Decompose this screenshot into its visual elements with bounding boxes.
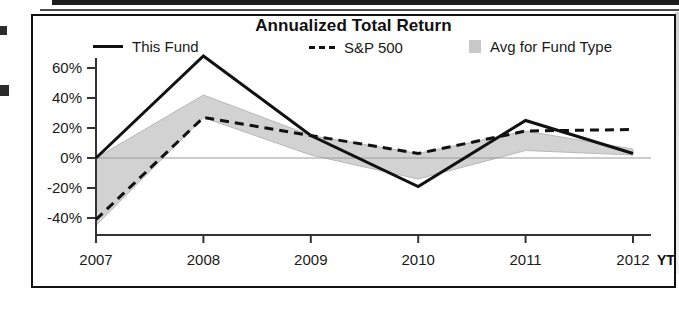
y-axis-tick-label: 0% (60, 149, 82, 166)
chart-figure-box: Annualized Total Return This Fund S&P 50… (31, 14, 676, 288)
x-axis-tick-label: 2012 (616, 251, 649, 268)
y-axis-tick-label: -40% (47, 209, 82, 226)
y-axis-tick-labels: 60%40%20%0%-20%-40% (47, 59, 82, 226)
x-axis-tick-label: 2008 (187, 251, 220, 268)
scan-artifact-top-bar (52, 0, 679, 5)
chart-plot-area: 60%40%20%0%-20%-40% 20072008200920102011… (33, 16, 674, 286)
y-axis-tick-label: 40% (52, 89, 82, 106)
x-axis-tick-label: 2010 (402, 251, 435, 268)
scan-artifact-left-mark-lower (0, 85, 9, 96)
x-axis-tick-label: 2007 (79, 251, 112, 268)
x-axis-tick-labels: 200720082009201020112012YTD (79, 251, 674, 268)
x-axis-tick-label: 2009 (294, 251, 327, 268)
x-axis-tick-label: 2011 (509, 251, 541, 268)
x-axis-ytd-label: YTD (657, 252, 674, 268)
scan-artifact-top-rule (40, 9, 679, 11)
y-axis-tick-label: -20% (47, 179, 82, 196)
y-axis-tick-label: 60% (52, 59, 82, 76)
scan-artifact-left-mark (0, 26, 7, 35)
y-axis-tick-label: 20% (52, 119, 82, 136)
